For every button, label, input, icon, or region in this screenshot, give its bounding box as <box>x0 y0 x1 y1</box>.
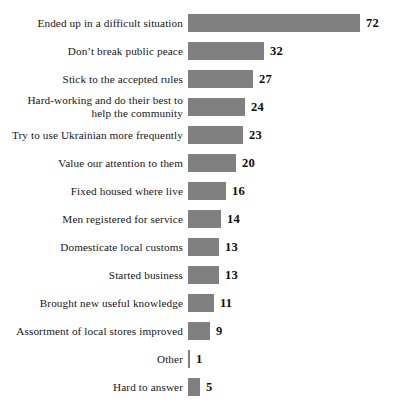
bar-row: Try to use Ukrainian more frequently 23 <box>0 121 397 149</box>
bar-track: 16 <box>188 177 397 205</box>
bar-category-label: Hard-working and do their best to help t… <box>0 94 188 120</box>
bar-track: 23 <box>188 121 397 149</box>
bar-track: 13 <box>188 261 397 289</box>
bar-value-label: 5 <box>206 381 212 394</box>
bar-track: 11 <box>188 289 397 317</box>
bar-row: Stick to the accepted rules 27 <box>0 65 397 93</box>
bar-value-label: 32 <box>270 45 283 58</box>
bar-13 <box>188 378 200 396</box>
bar-category-label: Hard to answer <box>0 381 188 394</box>
bar-track: 32 <box>188 37 397 65</box>
bar-category-label: Stick to the accepted rules <box>0 73 188 86</box>
bar-row: Value our attention to them 20 <box>0 149 397 177</box>
bar-3 <box>188 98 245 116</box>
bar-category-label: Value our attention to them <box>0 157 188 170</box>
bar-value-label: 16 <box>232 185 245 198</box>
bar-value-label: 20 <box>242 157 255 170</box>
bar-value-label: 13 <box>225 241 238 254</box>
bar-track: 72 <box>188 9 397 37</box>
bar-category-label: Men registered for service <box>0 213 188 226</box>
bar-2 <box>188 70 253 88</box>
bar-row: Fixed housed where live 16 <box>0 177 397 205</box>
bar-0 <box>188 14 360 32</box>
bar-track: 1 <box>188 345 397 373</box>
bar-category-label: Fixed housed where live <box>0 185 188 198</box>
bar-value-label: 72 <box>366 17 379 30</box>
bar-category-label: Brought new useful knowledge <box>0 297 188 310</box>
bar-6 <box>188 182 226 200</box>
bar-8 <box>188 238 219 256</box>
bar-7 <box>188 210 221 228</box>
bar-track: 14 <box>188 205 397 233</box>
bar-1 <box>188 42 264 60</box>
bar-row: Men registered for service 14 <box>0 205 397 233</box>
bar-value-label: 14 <box>227 213 240 226</box>
bar-row: Hard-working and do their best to help t… <box>0 93 397 121</box>
bar-row: Other 1 <box>0 345 397 373</box>
bar-9 <box>188 266 219 284</box>
bar-track: 13 <box>188 233 397 261</box>
bar-category-label: Started business <box>0 269 188 282</box>
bar-12 <box>188 350 190 368</box>
bar-value-label: 27 <box>259 73 272 86</box>
bar-category-label: Ended up in a difficult situation <box>0 17 188 30</box>
bar-category-label: Try to use Ukrainian more frequently <box>0 129 188 142</box>
bar-row: Don’t break public peace 32 <box>0 37 397 65</box>
bar-10 <box>188 294 214 312</box>
bar-category-label: Other <box>0 353 188 366</box>
bar-row: Ended up in a difficult situation 72 <box>0 9 397 37</box>
bar-11 <box>188 322 210 340</box>
bar-row: Domesticate local customs 13 <box>0 233 397 261</box>
bar-track: 9 <box>188 317 397 345</box>
bar-category-label: Assortment of local stores improved <box>0 325 188 338</box>
bar-value-label: 24 <box>251 101 264 114</box>
bar-track: 5 <box>188 373 397 400</box>
bar-value-label: 1 <box>196 353 202 366</box>
bar-value-label: 23 <box>249 129 262 142</box>
bar-value-label: 9 <box>216 325 222 338</box>
bar-category-label: Domesticate local customs <box>0 241 188 254</box>
bar-track: 20 <box>188 149 397 177</box>
bar-4 <box>188 126 243 144</box>
bar-category-label: Don’t break public peace <box>0 45 188 58</box>
bar-row: Assortment of local stores improved 9 <box>0 317 397 345</box>
bar-5 <box>188 154 236 172</box>
bar-track: 27 <box>188 65 397 93</box>
bar-row: Brought new useful knowledge 11 <box>0 289 397 317</box>
bar-value-label: 11 <box>220 297 232 310</box>
bar-row: Hard to answer 5 <box>0 373 397 400</box>
bar-row: Started business 13 <box>0 261 397 289</box>
bar-value-label: 13 <box>225 269 238 282</box>
bar-track: 24 <box>188 93 397 121</box>
